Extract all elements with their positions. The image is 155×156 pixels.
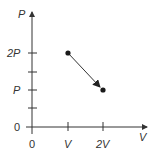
x-tick-label-v: V — [64, 138, 73, 150]
x-axis-label: V — [139, 131, 148, 143]
process-arrow — [68, 53, 100, 87]
x-tick-label-2v: 2V — [95, 138, 111, 150]
pv-diagram: P V 2P P 0 0 V 2V — [0, 0, 155, 156]
y-origin-label: 0 — [14, 121, 20, 133]
y-tick-label-2p: 2P — [6, 47, 21, 59]
y-tick-label-p: P — [13, 84, 21, 96]
state-point-start — [65, 50, 70, 55]
x-origin-label: 0 — [29, 138, 35, 150]
y-axis-label: P — [18, 8, 26, 20]
state-point-end — [100, 87, 105, 92]
